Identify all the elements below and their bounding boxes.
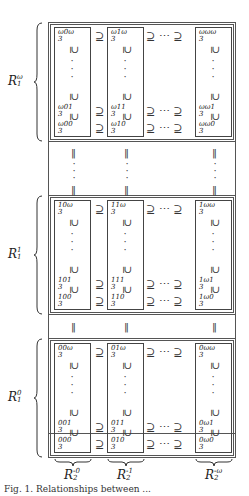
bottom-brace-icon [107,458,145,467]
subset-symbol: ⊇ [69,93,79,101]
superset-symbol: ⊇ [95,296,104,307]
vdots-symbol: · · · [212,160,218,181]
equals-symbol: ‖ [71,148,76,158]
vdots-symbol: · · · [210,230,216,254]
equals-symbol: ‖ [124,185,129,195]
set-cell: 0ω03 [199,437,214,451]
superset-symbol: ⊇ ⋯ ⊇ [146,347,182,358]
set-cell: ω003 [58,121,73,135]
subset-symbol: ⊇ [69,409,79,417]
set-cell: 0103 [111,437,124,451]
set-cell: 0003 [58,437,71,451]
set-cell: 10ω3 [58,202,73,216]
subset-symbol: ⊇ [122,409,132,417]
superset-symbol: ⊇ ⋯ ⊇ [146,422,182,433]
set-cell: 01ω3 [111,345,126,359]
superset-symbol: ⊇ ⋯ ⊇ [146,106,182,117]
equals-symbol: ‖ [212,322,217,332]
subset-symbol: ⊇ [210,362,220,370]
set-cell: ω0ω3 [58,29,74,43]
subset-symbol: ⊇ [210,286,220,294]
set-cell: ω1ω3 [111,29,127,43]
vdots-symbol: · · · [71,160,77,181]
superset-symbol: ⊇ [95,279,104,290]
subset-symbol: ⊇ [210,409,220,417]
superset-symbol: ⊇ ⋯ ⊇ [146,279,182,290]
group-label: Rω1 [8,74,23,88]
subset-symbol: ⊇ [69,429,79,437]
vdots-symbol: · · · [69,373,75,397]
bottom-brace-icon [195,458,233,467]
equals-symbol: ‖ [212,185,217,195]
superset-symbol: ⊇ ⋯ ⊇ [146,296,182,307]
superset-symbol: ⊇ ⋯ ⊇ [146,439,182,450]
subset-symbol: ⊇ [69,219,79,227]
superset-symbol: ⊇ [95,123,104,134]
superset-symbol: ⊇ [95,31,104,42]
subset-symbol: ⊇ [122,93,132,101]
superset-symbol: ⊇ [95,347,104,358]
vdots-symbol: · · · [122,373,128,397]
subset-symbol: ⊇ [69,113,79,121]
superset-symbol: ⊇ ⋯ ⊇ [146,204,182,215]
equals-symbol: ‖ [212,148,217,158]
subset-symbol: ⊇ [69,286,79,294]
vdots-symbol: · · · [122,57,128,81]
equals-symbol: ‖ [124,148,129,158]
set-cell: 11ω3 [111,202,126,216]
subset-symbol: ⊇ [210,46,220,54]
superset-symbol: ⊇ [95,106,104,117]
figure-caption: Fig. 1. Relationships between ... [4,484,151,494]
subset-symbol: ⊇ [122,113,132,121]
vdots-symbol: · · · [210,373,216,397]
vdots-symbol: · · · [69,230,75,254]
set-cell: 00ω3 [58,345,73,359]
vdots-symbol: · · · [69,57,75,81]
vdots-symbol: · · · [122,230,128,254]
superset-symbol: ⊇ [95,439,104,450]
column-label: R-12 [117,468,133,482]
left-brace-icon [34,338,44,458]
subset-symbol: ⊇ [210,113,220,121]
vdots-symbol: · · · [210,57,216,81]
subset-symbol: ⊇ [122,219,132,227]
subset-symbol: ⊇ [122,362,132,370]
set-cell: ωω03 [199,121,215,135]
left-brace-icon [34,22,44,142]
set-cell: 1ωω3 [199,202,215,216]
vdots-symbol: · · · [124,160,130,181]
superset-symbol: ⊇ ⋯ ⊇ [146,123,182,134]
set-cell: 1103 [111,294,124,308]
superset-symbol: ⊇ [95,422,104,433]
superset-symbol: ⊇ ⋯ ⊇ [146,31,182,42]
set-cell: 0ωω3 [199,345,215,359]
left-brace-icon [34,195,44,315]
equals-symbol: ‖ [124,322,129,332]
group-label: R01 [8,390,22,404]
subset-symbol: ⊇ [210,429,220,437]
subset-symbol: ⊇ [122,429,132,437]
subset-symbol: ⊇ [69,46,79,54]
subset-symbol: ⊇ [210,93,220,101]
subset-symbol: ⊇ [210,219,220,227]
superset-symbol: ⊇ [95,204,104,215]
group-label: R11 [8,247,22,261]
column-label: R-02 [64,468,80,482]
set-cell: ω103 [111,121,126,135]
subset-symbol: ⊇ [69,266,79,274]
subset-symbol: ⊇ [122,286,132,294]
equals-symbol: ‖ [71,185,76,195]
subset-symbol: ⊇ [122,46,132,54]
subset-symbol: ⊇ [210,266,220,274]
set-cell: ωωω3 [199,29,216,43]
set-cell: 1ω03 [199,294,214,308]
equals-symbol: ‖ [71,322,76,332]
column-label: R-ω2 [205,468,222,482]
subset-symbol: ⊇ [69,362,79,370]
subset-symbol: ⊇ [122,266,132,274]
bottom-brace-icon [54,458,92,467]
set-cell: 1003 [58,294,71,308]
